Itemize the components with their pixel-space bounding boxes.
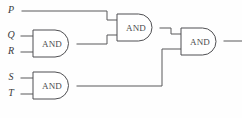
- input-label-r: R: [7, 45, 14, 56]
- gate-and-4[interactable]: AND: [33, 72, 69, 99]
- gate-and-1-label: AND: [42, 39, 62, 49]
- gate-and-2[interactable]: AND: [117, 14, 152, 41]
- gate-and-1[interactable]: AND: [33, 30, 69, 57]
- gate-and-3[interactable]: AND: [181, 28, 216, 55]
- logic-circuit-figure: AND AND AND AND P Q R S T: [0, 0, 242, 118]
- wire-p-to-gate2: [22, 11, 117, 20]
- input-label-p: P: [7, 4, 14, 15]
- gate-and-3-label: AND: [190, 37, 210, 47]
- input-label-q: Q: [7, 29, 15, 40]
- wire-gate2-to-gate3: [160, 28, 181, 34]
- gate-and-2-label: AND: [126, 23, 146, 33]
- input-label-s: S: [9, 71, 14, 82]
- circuit-canvas: AND AND AND AND P Q R S T: [0, 0, 242, 118]
- input-label-t: T: [8, 87, 15, 98]
- wire-gate1-to-gate2: [77, 35, 117, 44]
- wire-gate4-to-gate3: [77, 49, 181, 86]
- gate-and-4-label: AND: [42, 81, 62, 91]
